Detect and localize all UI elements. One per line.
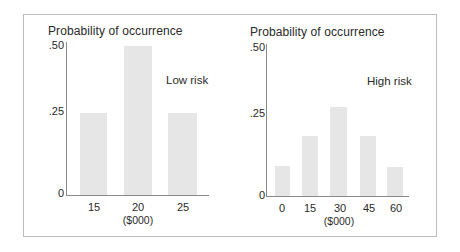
bar-low-25 <box>168 113 197 195</box>
low-risk-label: Low risk <box>166 74 208 86</box>
left-ytick-50: .50 <box>40 39 64 51</box>
right-y-axis <box>266 44 267 197</box>
right-xtick-30: 30 <box>325 202 355 214</box>
bar-high-45 <box>360 136 376 196</box>
left-xtick-25: 25 <box>168 201 198 213</box>
left-ytick-25: .25 <box>40 105 64 117</box>
high-risk-label: High risk <box>367 75 412 87</box>
right-x-unit: ($000) <box>314 215 364 227</box>
right-ytick-25: .25 <box>241 107 265 119</box>
bar-low-15 <box>80 113 107 195</box>
left-y-axis-title: Probability of occurrence <box>48 24 183 38</box>
right-xtick-15: 15 <box>295 202 325 214</box>
right-xtick-60: 60 <box>381 202 411 214</box>
left-xtick-15: 15 <box>79 201 109 213</box>
right-x-axis <box>266 196 409 197</box>
right-ytick-0: 0 <box>241 189 265 201</box>
bar-high-60 <box>387 167 403 196</box>
left-y-axis <box>66 42 67 196</box>
bar-high-0 <box>275 166 290 196</box>
bar-high-15 <box>302 136 318 196</box>
right-ytick-50: .50 <box>241 41 265 53</box>
right-xtick-45: 45 <box>354 202 384 214</box>
left-ytick-0: 0 <box>40 187 64 199</box>
right-xtick-0: 0 <box>267 202 297 214</box>
bar-low-20 <box>124 46 152 195</box>
left-xtick-20: 20 <box>123 201 153 213</box>
left-x-unit: ($000) <box>113 214 163 226</box>
bar-high-30 <box>330 107 347 196</box>
right-y-axis-title: Probability of occurrence <box>250 25 385 39</box>
left-x-axis <box>66 195 209 196</box>
